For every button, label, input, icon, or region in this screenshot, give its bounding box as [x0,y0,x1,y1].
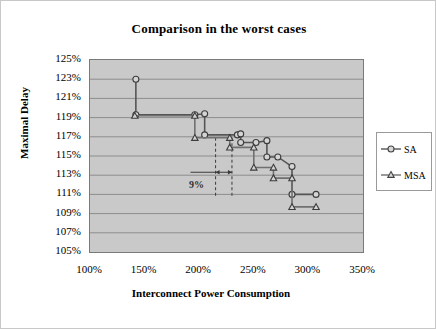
x-tick-label: 150% [114,263,174,275]
y-tick-label: 107% [35,226,81,237]
annotation-9-percent-label: 9% [189,179,204,190]
y-tick-label: 109% [35,207,81,218]
y-tick-label: 121% [35,91,81,102]
annotation-arrow-head [228,170,232,174]
legend-marker-circle-icon [380,143,402,155]
annotation-arrow-head [216,170,220,174]
x-tick-label: 100% [59,263,119,275]
x-tick-label: 250% [223,263,283,275]
legend-label-msa: MSA [404,170,426,181]
data-point-sa[interactable] [275,154,281,160]
x-tick-label: 200% [168,263,228,275]
data-point-sa[interactable] [264,138,270,144]
legend-label-sa: SA [404,144,417,155]
y-tick-label: 111% [35,187,81,198]
data-point-sa[interactable] [133,76,139,82]
data-point-sa[interactable] [289,164,295,170]
y-axis-title: Maximal Delay [18,48,30,198]
y-tick-label: 105% [35,245,81,256]
y-tick-label: 113% [35,168,81,179]
y-tick-label: 119% [35,111,81,122]
chart-container: Comparison in the worst cases Maximal De… [0,0,436,329]
legend-item-sa[interactable]: SA [380,142,417,156]
x-axis-title: Interconnect Power Consumption [61,287,361,299]
data-point-sa[interactable] [238,131,244,137]
x-tick-label: 350% [332,263,392,275]
data-point-sa[interactable] [264,154,270,160]
chart-title: Comparison in the worst cases [1,21,436,37]
data-point-sa[interactable] [313,191,319,197]
chart-legend: SA MSA [376,132,432,191]
y-tick-label: 115% [35,149,81,160]
y-tick-label: 117% [35,130,81,141]
legend-item-msa[interactable]: MSA [380,168,426,182]
x-tick-label: 300% [277,263,337,275]
series-layer [132,76,320,209]
data-point-sa[interactable] [202,111,208,117]
legend-marker-triangle-icon [380,169,402,181]
gridlines [90,79,363,233]
plot-area [89,59,364,253]
y-tick-label: 125% [35,53,81,64]
plot-svg [90,60,363,252]
data-point-sa[interactable] [238,140,244,146]
y-tick-label: 123% [35,72,81,83]
